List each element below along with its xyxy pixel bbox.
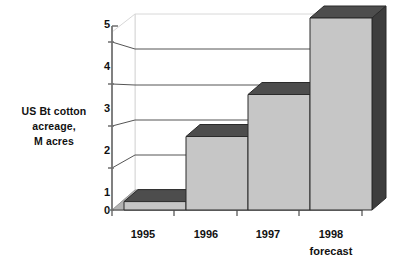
x-tick-label-1997: 1997	[238, 228, 298, 240]
bar-1998	[310, 6, 386, 210]
bar-chart: US Bt cotton acreage, M acres 5 4 3 2 1 …	[0, 0, 420, 264]
x-tick-label-1998: 1998 forecast	[301, 228, 361, 257]
x-tick-label-1998-year: 1998	[319, 228, 343, 240]
bar-1997-front	[248, 95, 310, 211]
x-tick-label-1996: 1996	[176, 228, 236, 240]
plot-area	[0, 0, 420, 264]
bar-1996-front	[186, 137, 248, 211]
x-tick-label-1998-sublabel: forecast	[301, 245, 361, 257]
bar-1995-front	[124, 202, 186, 210]
bar-1998-front	[310, 18, 372, 210]
x-tick-label-1995: 1995	[113, 228, 173, 240]
bar-1998-side	[372, 6, 386, 210]
